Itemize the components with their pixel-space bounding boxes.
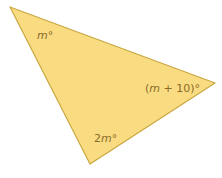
angle-label-top-left: m° [37, 29, 53, 42]
angle-label-bottom: 2m° [94, 132, 117, 145]
angle-label-right: (m + 10)° [145, 82, 200, 95]
triangle-diagram: m° (m + 10)° 2m° [0, 0, 222, 178]
